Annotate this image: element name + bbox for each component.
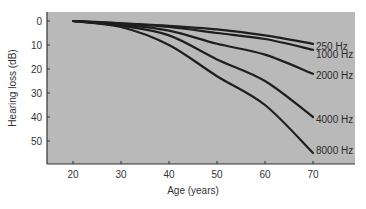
y-tick-label: 0 [36,16,42,27]
x-tick-label: 60 [259,169,271,180]
y-tick-label: 10 [31,40,43,51]
series-label: 8000 Hz [316,145,353,156]
y-axis-title: Hearing loss (dB) [7,49,18,126]
series-label: 4000 Hz [316,114,353,125]
series-label: 1000 Hz [316,49,353,60]
y-tick-label: 20 [31,64,43,75]
y-tick-label: 30 [31,88,43,99]
x-tick-label: 50 [211,169,223,180]
x-axis-title: Age (years) [167,185,219,196]
y-tick-label: 40 [31,112,43,123]
hearing-loss-chart: 01020304050 203040506070 250 Hz1000 Hz20… [0,0,366,209]
x-tick-label: 70 [307,169,319,180]
y-tick-label: 50 [31,136,43,147]
x-tick-label: 40 [163,169,175,180]
x-tick-label: 30 [115,169,127,180]
x-tick-label: 20 [67,169,79,180]
plot-area [47,12,355,164]
series-label: 2000 Hz [316,70,353,81]
